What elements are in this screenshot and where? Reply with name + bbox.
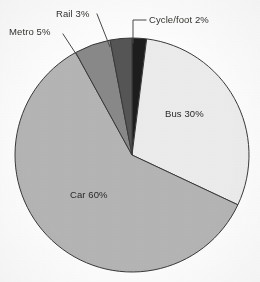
slice-label-metro: Metro 5% — [9, 26, 50, 37]
pie-chart-svg — [0, 0, 260, 282]
slice-label-rail: Rail 3% — [56, 8, 89, 19]
slice-label-bus: Bus 30% — [165, 108, 204, 119]
pie-slices — [15, 38, 249, 272]
slice-label-cycle-foot: Cycle/foot 2% — [149, 14, 209, 25]
slice-label-car: Car 60% — [70, 189, 108, 200]
pie-chart: Bus 30% Car 60% Metro 5% Rail 3% Cycle/f… — [0, 0, 260, 282]
